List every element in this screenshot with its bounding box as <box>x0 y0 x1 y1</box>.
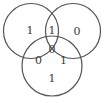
region-value-left-only: 1 <box>27 24 34 37</box>
venn-diagram: 1 1 0 0 0 1 1 <box>0 0 105 103</box>
region-value-center-all: 0 <box>49 43 56 56</box>
venn-diagram-canvas: 1 1 0 0 0 1 1 <box>0 0 105 103</box>
region-value-bottom-only: 1 <box>49 72 56 85</box>
region-value-left-bottom-intersection: 0 <box>35 54 42 67</box>
region-value-top-intersection: 1 <box>49 24 56 37</box>
region-value-right-bottom-intersection: 1 <box>60 54 67 67</box>
region-value-right-only: 0 <box>74 25 81 38</box>
